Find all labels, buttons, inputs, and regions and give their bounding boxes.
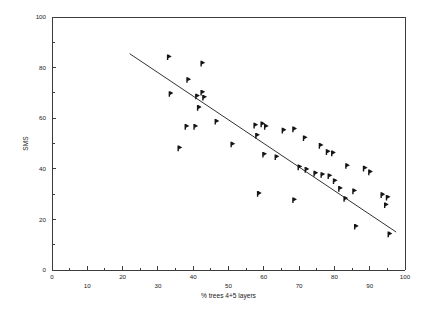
data-point-marker [169,91,174,97]
y-tick-label: 0 [43,266,47,273]
x-tick-label: 0 [50,273,54,280]
y-tick-label: 80 [39,64,46,71]
x-tick-label: 30 [154,282,161,289]
y-axis-title: SMS [22,136,29,151]
data-point-marker [292,127,297,133]
x-tick-label: 10 [84,282,91,289]
data-point-marker [319,143,324,149]
data-point-marker [326,149,331,155]
y-tick-label: 40 [39,165,46,172]
x-tick-label: 20 [119,273,126,280]
data-point-marker [331,151,336,157]
data-point-marker [328,173,333,179]
data-point-marker [255,133,260,139]
x-tick-label: 100 [400,273,411,280]
data-point-marker [177,146,182,152]
y-tick-label: 60 [39,114,46,121]
data-point-marker [264,124,269,130]
x-tick-label: 70 [296,282,303,289]
data-point-marker [386,195,391,201]
data-point-marker [354,224,359,230]
x-tick-label: 50 [225,282,232,289]
data-point-marker [368,170,373,176]
data-point-marker [388,232,393,238]
data-point-marker [230,142,235,148]
data-point-marker [257,191,262,197]
data-point-marker [200,61,205,67]
data-point-marker [313,171,318,177]
scatter-plot-svg: 0102030405060708090100020406080100% tree… [0,0,429,311]
y-tick-label: 20 [39,216,46,223]
regression-fit-line [130,54,397,232]
y-tick-label: 100 [36,13,47,20]
data-point-marker [197,105,202,111]
data-point-marker [303,135,308,141]
x-axis-title: % trees 4+5 layers [201,292,256,300]
data-point-marker [185,124,190,130]
data-point-marker [253,123,258,129]
data-point-marker [333,178,338,184]
data-point-marker [186,77,191,83]
data-point-marker [384,202,389,208]
data-point-marker [282,128,287,134]
data-point-marker [352,189,357,195]
x-tick-label: 40 [190,273,197,280]
data-point-marker [202,95,207,101]
data-point-marker [345,163,350,169]
data-point-marker [262,152,267,158]
data-point-marker [380,192,385,198]
scatter-chart-figure: 0102030405060708090100020406080100% tree… [0,0,429,311]
data-point-marker [200,90,205,96]
data-point-marker [363,166,368,172]
data-point-marker [338,186,343,192]
data-point-marker [215,119,220,125]
x-tick-label: 90 [366,282,373,289]
data-point-marker [193,124,198,130]
data-point-marker [320,172,325,178]
x-tick-label: 60 [260,273,267,280]
data-point-marker [195,94,200,100]
data-point-marker [275,154,280,160]
data-point-marker [167,54,172,60]
data-point-marker [292,197,297,203]
x-tick-label: 80 [331,273,338,280]
